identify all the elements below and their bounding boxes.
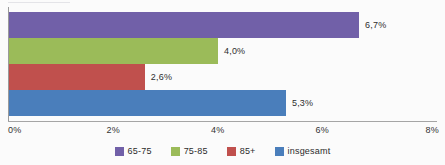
legend-label-85-plus: 85+	[240, 146, 256, 156]
bar-value-insgesamt: 5,3%	[292, 98, 313, 108]
legend-item-insgesamt: insgesamt	[275, 146, 331, 156]
chart-legend: 65-75 75-85 85+ insgesamt	[0, 144, 445, 158]
bar-75-85	[9, 38, 218, 64]
bar-value-65-75: 6,7%	[365, 20, 386, 30]
legend-item-85-plus: 85+	[227, 146, 256, 156]
legend-swatch-icon-65-75	[115, 147, 124, 156]
x-tick-3: 6%	[316, 125, 329, 135]
legend-label-insgesamt: insgesamt	[288, 146, 331, 156]
legend-swatch-icon-insgesamt	[275, 147, 284, 156]
x-tick-1: 2%	[107, 125, 120, 135]
x-tick-0: 0%	[8, 125, 21, 135]
legend-swatch-icon-85-plus	[227, 147, 236, 156]
legend-swatch-icon-75-85	[171, 147, 180, 156]
x-tick-2: 4%	[211, 125, 224, 135]
plot-area: 6,7% 4,0% 2,6% 5,3%	[0, 0, 445, 124]
bar-value-75-85: 4,0%	[224, 46, 245, 56]
bar-insgesamt	[9, 90, 286, 116]
bar-85-plus	[9, 64, 145, 90]
x-tick-4: 8%	[426, 125, 439, 135]
legend-label-75-85: 75-85	[184, 146, 208, 156]
bar-chart: 6,7% 4,0% 2,6% 5,3% 0% 2% 4% 6% 8% 65-75…	[0, 0, 445, 165]
legend-item-65-75: 65-75	[115, 146, 152, 156]
legend-item-75-85: 75-85	[171, 146, 208, 156]
x-axis-line	[8, 121, 437, 122]
legend-label-65-75: 65-75	[128, 146, 152, 156]
bar-value-85-plus: 2,6%	[151, 72, 172, 82]
bar-65-75	[9, 12, 359, 38]
x-axis-tick-labels: 0% 2% 4% 6% 8%	[0, 125, 445, 139]
